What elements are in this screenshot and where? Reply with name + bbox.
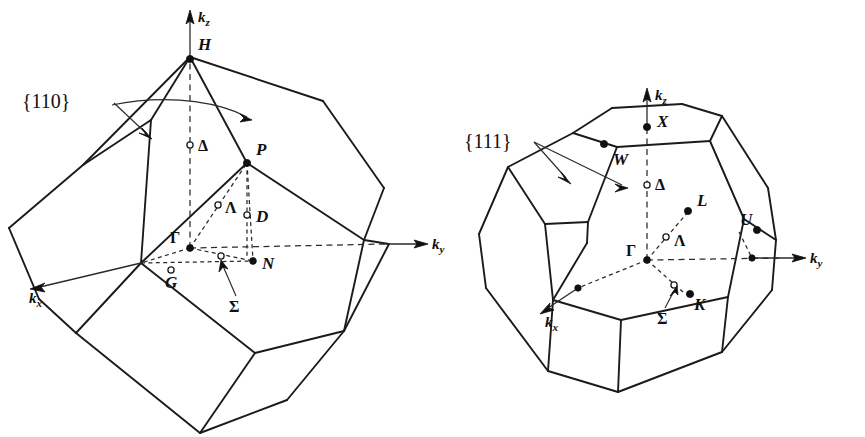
bcc-point-Lambda[interactable] (215, 202, 221, 208)
fcc-axes (540, 88, 806, 314)
bcc-label-N: N (261, 254, 275, 273)
bcc-sigma-leader-line (223, 266, 236, 296)
bcc-label-ky: ky (432, 236, 445, 255)
bcc-point-Sigma[interactable] (218, 253, 224, 259)
fcc-point-Delta[interactable] (644, 182, 650, 188)
fcc-label-Delta: Δ (655, 176, 665, 193)
fcc-plane-leader-long (534, 142, 622, 185)
fcc-point-K[interactable] (686, 290, 693, 297)
bcc-point-P[interactable] (243, 159, 250, 166)
fcc-label-Sigma: Σ (657, 310, 667, 327)
bcc-label-D: D (255, 207, 268, 226)
fcc-label-L: L (696, 191, 707, 210)
fcc-label-plane-111: {111} (464, 130, 512, 152)
fcc-label-kz: kz (655, 87, 668, 106)
fcc-point-X[interactable] (643, 123, 650, 130)
fcc-point-ky-node[interactable] (749, 255, 755, 261)
fcc-point-U[interactable] (753, 226, 760, 233)
bcc-point-N[interactable] (250, 258, 257, 265)
fcc-label-ky: ky (810, 250, 823, 269)
fcc-point-L[interactable] (684, 207, 691, 214)
bcc-label-kx: kx (29, 290, 43, 309)
bcc-label-P: P (255, 140, 267, 159)
fcc-label-K: K (693, 295, 707, 314)
bcc-point-Gamma[interactable] (187, 245, 194, 252)
fcc-zone-panel: X W L U K Γ Δ Λ Σ {111} kz ky kx (464, 87, 823, 392)
bcc-point-H[interactable] (186, 55, 193, 62)
bcc-label-Gamma: Γ (170, 229, 180, 246)
bcc-zone-panel: H P N Γ Δ Λ D G Σ {110} kz ky kx (9, 9, 445, 433)
fcc-label-U: U (740, 210, 753, 229)
bcc-label-G: G (165, 273, 178, 292)
bcc-kx-axis-line (40, 263, 141, 287)
fcc-label-Gamma: Γ (626, 242, 636, 259)
fcc-label-Lambda: Λ (674, 232, 686, 249)
fcc-label-X: X (656, 112, 669, 131)
bcc-label-Sigma: Σ (229, 298, 239, 315)
bcc-plane-leader-arrowhead-right (240, 114, 252, 122)
bcc-axes (30, 10, 428, 292)
fcc-plane-leader-arrowhead-left (558, 172, 571, 184)
bcc-label-Delta: Δ (198, 137, 208, 154)
fcc-label-W: W (613, 150, 630, 169)
bcc-label-Lambda: Λ (225, 199, 237, 216)
figure-canvas: H P N Γ Δ Λ D G Σ {110} kz ky kx (0, 0, 865, 437)
fcc-point-W[interactable] (600, 140, 607, 147)
fcc-sigma-leader (665, 286, 678, 308)
fcc-point-Lambda[interactable] (663, 234, 669, 240)
bcc-label-H: H (197, 35, 212, 54)
bcc-label-plane-110: {110} (22, 90, 70, 112)
fcc-point-Gamma[interactable] (644, 257, 651, 264)
bcc-label-kz: kz (198, 9, 211, 28)
brillouin-zone-figure: H P N Γ Δ Λ D G Σ {110} kz ky kx (0, 0, 865, 437)
bcc-point-Delta[interactable] (187, 142, 193, 148)
fcc-point-Sigma[interactable] (671, 282, 677, 288)
fcc-label-kx: kx (545, 314, 559, 333)
bcc-sigma-leader (219, 260, 236, 296)
fcc-point-kx-node[interactable] (575, 285, 581, 291)
bcc-point-D[interactable] (244, 212, 250, 218)
